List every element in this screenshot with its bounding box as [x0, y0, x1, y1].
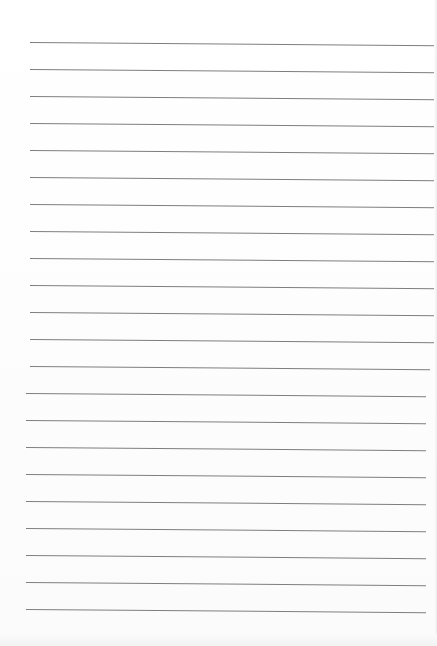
ruled-line	[26, 447, 426, 451]
ruled-line	[30, 231, 437, 235]
ruled-line	[30, 96, 437, 100]
ruled-line	[26, 582, 426, 586]
ruled-line	[30, 339, 437, 343]
ruled-line	[30, 285, 437, 289]
ruled-line	[30, 366, 430, 370]
ruled-line	[30, 258, 437, 262]
ruled-line	[30, 123, 437, 127]
lined-paper-page	[0, 0, 437, 646]
ruled-line	[26, 501, 426, 505]
ruled-line	[30, 204, 437, 208]
ruled-line	[30, 312, 437, 316]
ruled-line	[26, 555, 426, 559]
ruled-line	[26, 393, 426, 397]
ruled-line	[30, 42, 437, 46]
ruled-line	[26, 609, 426, 613]
ruled-line	[26, 474, 426, 478]
ruled-line	[26, 528, 426, 532]
page-bottom-shadow	[0, 634, 437, 646]
ruled-line	[30, 150, 437, 154]
ruled-line	[26, 420, 426, 424]
ruled-line	[30, 177, 437, 181]
ruled-line	[30, 69, 437, 73]
